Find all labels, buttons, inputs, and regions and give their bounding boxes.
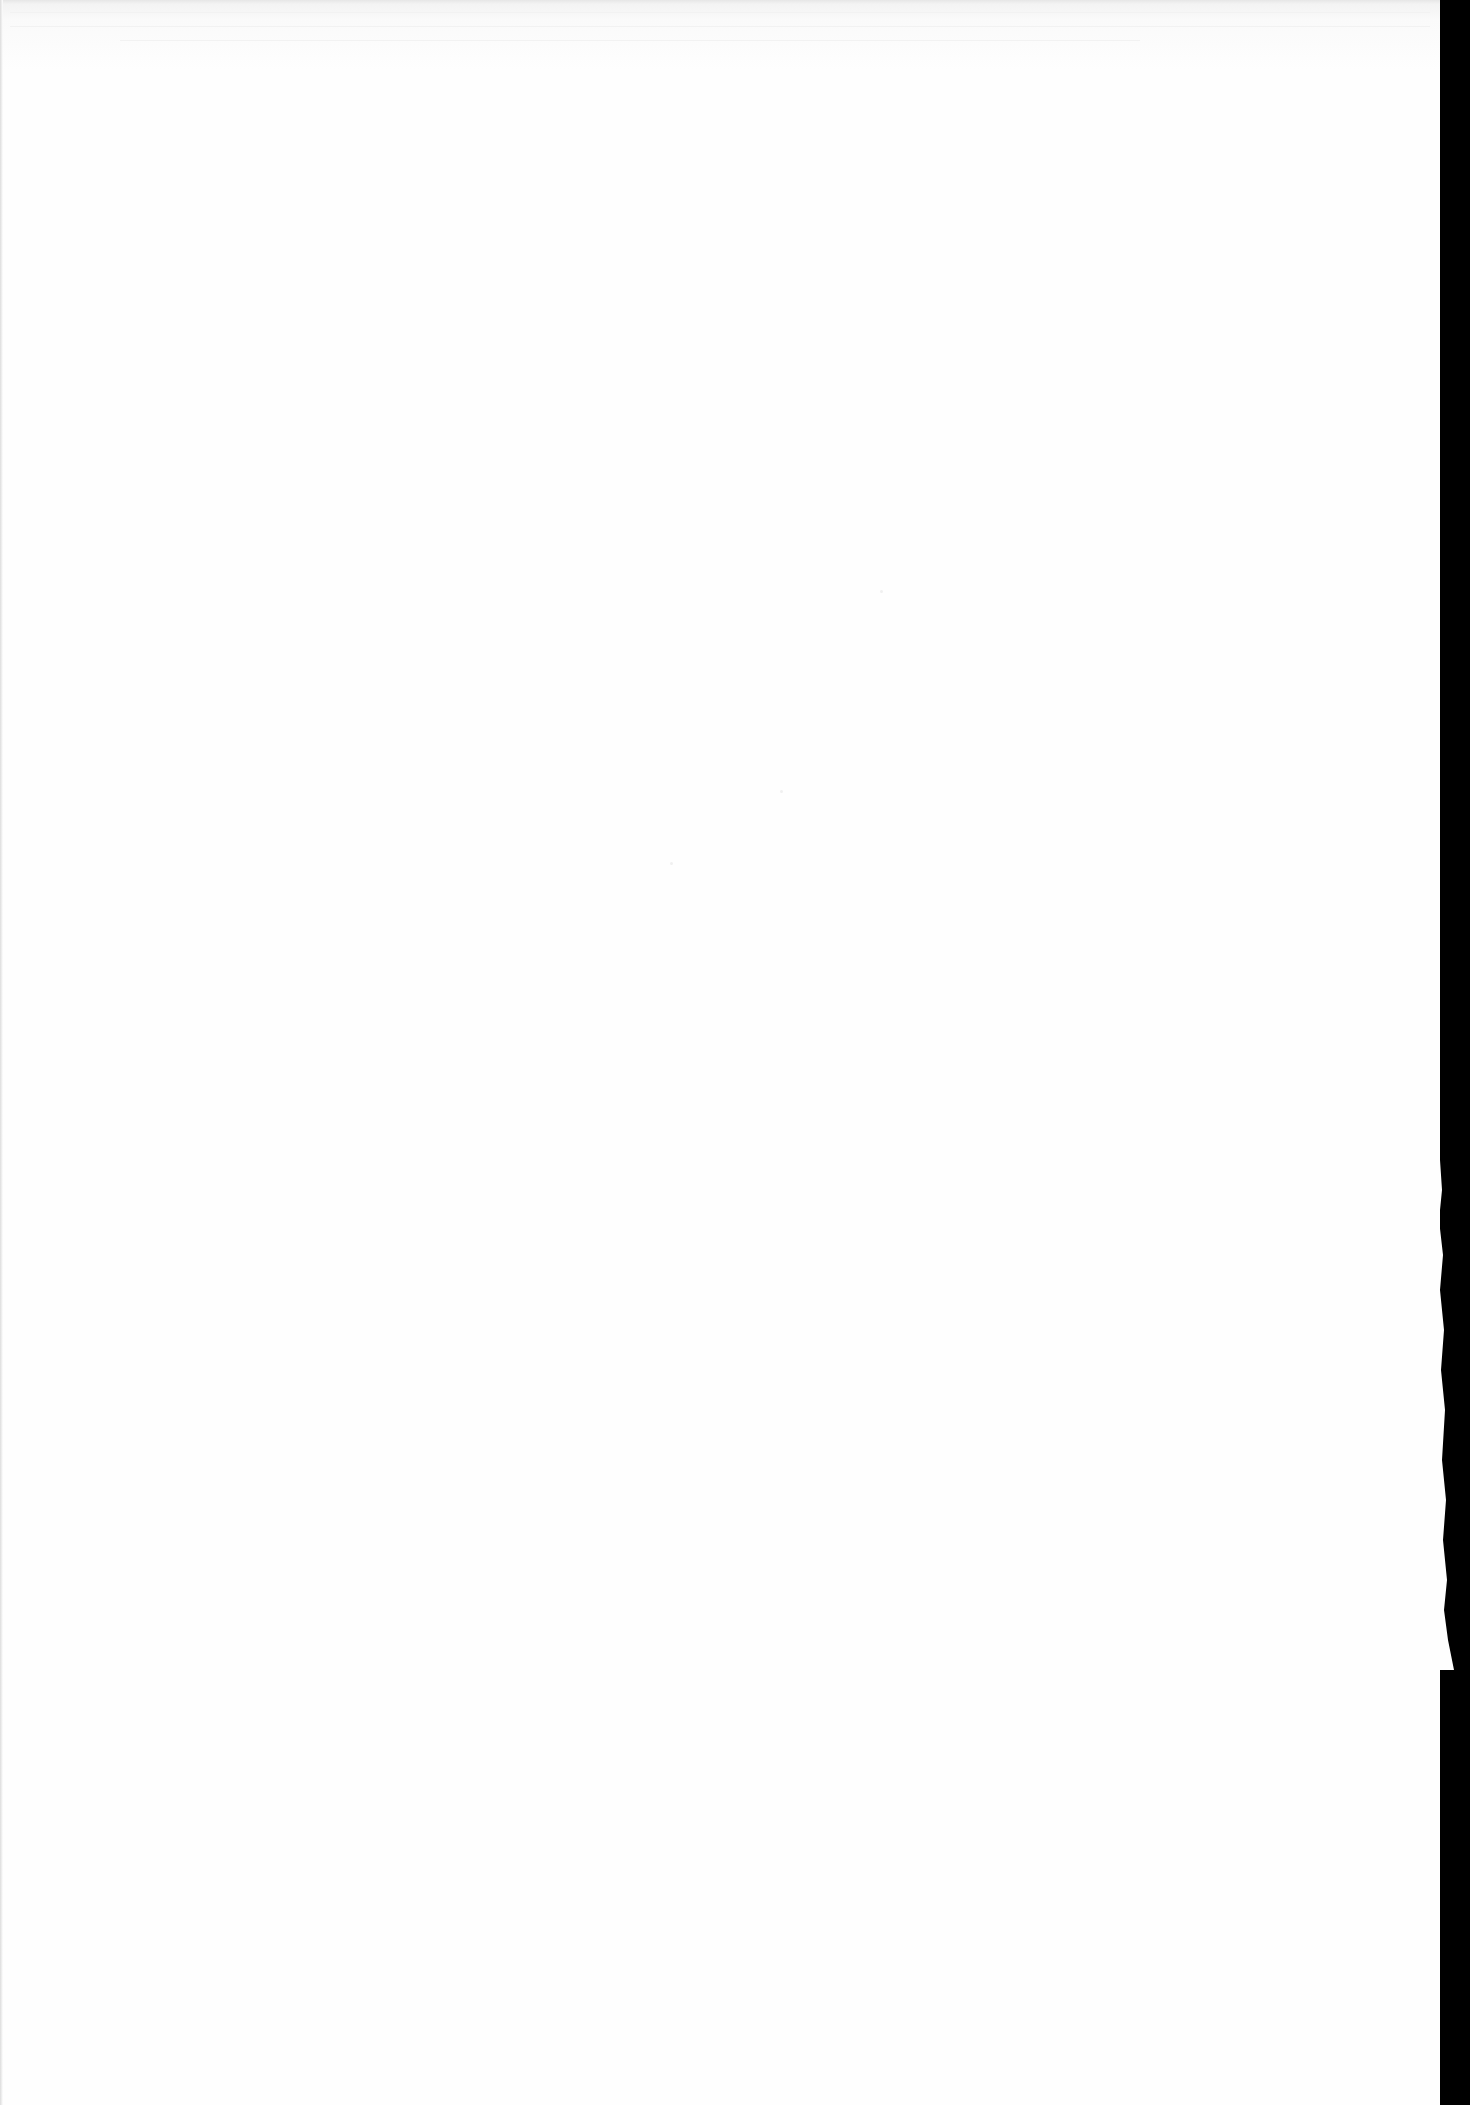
blank-page (0, 0, 1440, 2105)
scan-speck (670, 862, 673, 865)
scan-speck (880, 590, 883, 593)
page-left-edge (0, 0, 3, 2105)
torn-paper-edge (1436, 1160, 1454, 1670)
bleed-line (10, 12, 1430, 13)
scan-bleed-through (0, 0, 1440, 70)
scan-speck (780, 790, 783, 793)
bleed-line (120, 40, 1140, 41)
bleed-line (10, 26, 1430, 27)
